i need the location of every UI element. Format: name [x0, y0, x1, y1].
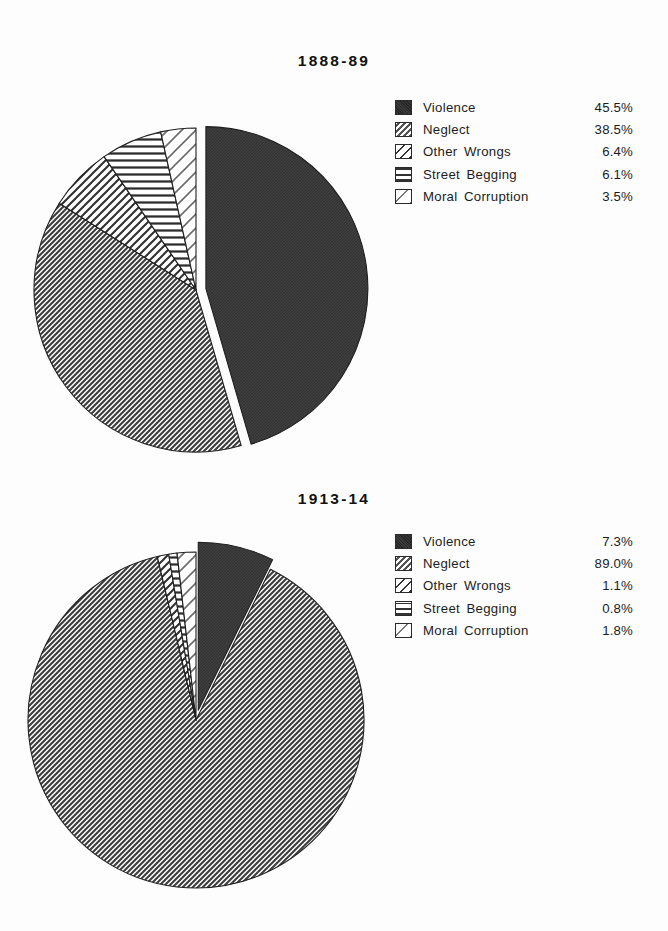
legend-label: Neglect — [423, 556, 575, 571]
legend-value: 45.5% — [575, 100, 633, 115]
legend-value: 0.8% — [575, 601, 633, 616]
swatch-neglect — [395, 122, 412, 137]
swatch-street-begging — [395, 601, 412, 616]
chart-title: 1888-89 — [0, 52, 668, 70]
legend-item: Other Wrongs 6.4% — [395, 141, 633, 163]
swatch-neglect — [395, 556, 412, 571]
legend-value: 1.1% — [575, 578, 633, 593]
swatch-violence — [395, 100, 412, 115]
legend-label: Neglect — [423, 122, 575, 137]
legend-label: Other Wrongs — [423, 578, 575, 593]
legend-value: 6.4% — [575, 144, 633, 159]
legend-item: Moral Corruption 3.5% — [395, 186, 633, 208]
pie-slice-violence — [206, 127, 368, 445]
legend-item: Violence 45.5% — [395, 96, 633, 118]
legend: Violence 7.3% Neglect 89.0% Other Wrongs… — [395, 530, 633, 642]
legend-value: 1.8% — [575, 623, 633, 638]
pie-chart-1913-14 — [20, 535, 380, 899]
swatch-moral-corruption — [395, 623, 412, 638]
swatch-other-wrongs — [395, 578, 412, 593]
legend-item: Moral Corruption 1.8% — [395, 620, 633, 642]
legend-value: 38.5% — [575, 122, 633, 137]
chart-title: 1913-14 — [0, 490, 668, 508]
legend-label: Street Begging — [423, 601, 575, 616]
legend-item: Neglect 89.0% — [395, 552, 633, 574]
pie-chart-1888-89 — [20, 110, 380, 464]
swatch-violence — [395, 534, 412, 549]
scanned-page: 1888-89 Violence 45.5% Neglect 38.5% Oth… — [0, 0, 668, 931]
legend-item: Street Begging 6.1% — [395, 163, 633, 185]
legend-value: 7.3% — [575, 534, 633, 549]
swatch-street-begging — [395, 167, 412, 182]
legend-label: Violence — [423, 100, 575, 115]
pie-svg — [20, 110, 380, 460]
swatch-moral-corruption — [395, 189, 412, 204]
legend-label: Street Begging — [423, 167, 575, 182]
chart-block-1888-89: 1888-89 Violence 45.5% Neglect 38.5% Oth… — [0, 0, 668, 470]
chart-block-1913-14: 1913-14 Violence 7.3% Neglect 89.0% Othe… — [0, 440, 668, 931]
legend-label: Other Wrongs — [423, 144, 575, 159]
legend: Violence 45.5% Neglect 38.5% Other Wrong… — [395, 96, 633, 208]
legend-value: 89.0% — [575, 556, 633, 571]
legend-label: Moral Corruption — [423, 623, 575, 638]
legend-item: Neglect 38.5% — [395, 118, 633, 140]
legend-label: Violence — [423, 534, 575, 549]
legend-item: Other Wrongs 1.1% — [395, 575, 633, 597]
legend-item: Street Begging 0.8% — [395, 597, 633, 619]
swatch-other-wrongs — [395, 144, 412, 159]
legend-label: Moral Corruption — [423, 189, 575, 204]
legend-value: 3.5% — [575, 189, 633, 204]
pie-svg — [20, 535, 380, 895]
legend-item: Violence 7.3% — [395, 530, 633, 552]
legend-value: 6.1% — [575, 167, 633, 182]
